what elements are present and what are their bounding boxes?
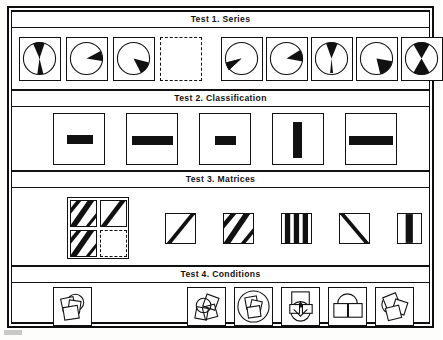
section-test-1: Test 1. Series	[12, 11, 429, 90]
section-body-test-2	[12, 107, 429, 171]
conditions-option-5[interactable]	[375, 287, 414, 326]
one-vertical-bar	[398, 214, 421, 243]
bar-horizontal-small	[67, 135, 93, 144]
two-diagonals-up	[71, 231, 96, 256]
option-squares-inside-large-circle	[235, 288, 272, 325]
matrices-option-5[interactable]	[397, 213, 422, 244]
section-title-test-3: Test 3. Matrices	[12, 171, 429, 188]
conditions-option-2[interactable]	[234, 287, 273, 326]
section-body-test-1	[12, 28, 429, 90]
classification-option-1[interactable]	[53, 113, 105, 165]
series-stem-item-1[interactable]	[19, 37, 61, 81]
page-edge-mark	[4, 330, 22, 335]
two-diagonals-up	[224, 214, 253, 243]
section-body-test-3	[12, 188, 429, 266]
section-test-2: Test 2. Classification	[12, 90, 429, 171]
conditions-option-3[interactable]	[281, 287, 320, 326]
classification-option-5[interactable]	[345, 113, 397, 165]
section-test-4: Test 4. Conditions	[12, 266, 429, 323]
option-three-rotated-squares-circle	[376, 288, 413, 325]
section-test-3: Test 3. Matrices	[12, 171, 429, 266]
matrix-cell-2[interactable]	[100, 200, 127, 227]
option-two-squares-circle-open	[188, 288, 225, 325]
bar-horizontal-wide	[132, 136, 173, 145]
option-circle-between-two-squares	[329, 288, 366, 325]
section-title-test-1: Test 1. Series	[12, 11, 429, 28]
section-title-test-4: Test 4. Conditions	[12, 266, 429, 283]
series-missing-item[interactable]	[160, 37, 202, 81]
matrix-cell-1[interactable]	[70, 200, 97, 227]
matrix-cell-3[interactable]	[70, 230, 97, 257]
classification-option-3[interactable]	[199, 113, 251, 165]
matrices-option-3[interactable]	[281, 213, 312, 244]
pie-wedge-lower-left	[222, 38, 261, 79]
bar-horizontal-tiny	[215, 136, 236, 145]
series-option-5[interactable]	[401, 37, 443, 81]
matrices-option-1[interactable]	[165, 213, 196, 244]
pie-wedge-upper-right	[67, 38, 106, 79]
series-option-3[interactable]	[311, 37, 353, 81]
one-diagonal-up	[101, 201, 126, 226]
pie-wedge-lower-right	[114, 38, 153, 79]
one-diagonal-up	[166, 214, 195, 243]
series-stem-item-3[interactable]	[113, 37, 155, 81]
series-stem-item-2[interactable]	[66, 37, 108, 81]
three-vertical-bars	[282, 214, 311, 243]
bar-vertical-tall	[293, 122, 302, 158]
classification-option-4[interactable]	[272, 113, 324, 165]
matrices-option-2[interactable]	[223, 213, 254, 244]
matrices-option-4[interactable]	[339, 213, 370, 244]
pie-wedge-lower-right-wide	[357, 38, 396, 79]
conditions-stem-item[interactable]	[53, 287, 92, 326]
series-option-4[interactable]	[356, 37, 398, 81]
option-square-circle-stacked	[282, 288, 319, 325]
conditions-option-1[interactable]	[187, 287, 226, 326]
pie-narrow-wedge-down	[20, 38, 59, 79]
test-sections: Test 1. Series	[12, 11, 429, 323]
classification-option-2[interactable]	[126, 113, 178, 165]
conditions-option-4[interactable]	[328, 287, 367, 326]
section-title-test-2: Test 2. Classification	[12, 90, 429, 107]
bar-horizontal-long	[349, 136, 393, 145]
matrix-2x2	[67, 197, 129, 259]
section-body-test-4	[12, 283, 429, 323]
series-option-2[interactable]	[266, 37, 308, 81]
pie-wide-wedge-down	[312, 38, 351, 79]
pie-hourglass-two-wedges	[402, 38, 441, 79]
matrix-cell-blank[interactable]	[100, 230, 127, 257]
stem-overlapping-squares-circle	[54, 288, 91, 325]
series-option-1[interactable]	[221, 37, 263, 81]
two-diagonals-up	[71, 201, 96, 226]
one-diagonal-down	[340, 214, 369, 243]
pie-wedge-right	[267, 38, 306, 79]
